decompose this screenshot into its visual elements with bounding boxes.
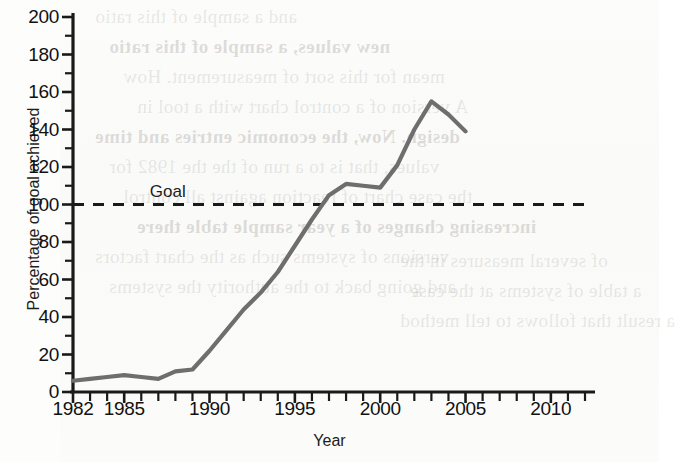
- axes: [70, 13, 595, 392]
- series-path: [73, 101, 466, 380]
- data-series-line: [73, 101, 466, 380]
- axis-ticks: [62, 17, 585, 403]
